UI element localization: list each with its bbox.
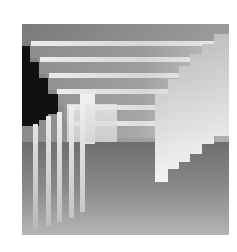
artwork-frame — [22, 24, 229, 235]
light-col-right-1 — [155, 94, 168, 182]
light-bar-h1 — [31, 41, 221, 46]
light-bar-v-left-1 — [33, 124, 38, 229]
light-bar-v-left-3 — [57, 112, 62, 222]
lower-gradient-field — [22, 142, 229, 235]
light-col-right-5 — [202, 44, 214, 144]
dark-step-2 — [30, 62, 39, 126]
light-bar-v-left-5 — [80, 100, 85, 212]
light-col-right-3 — [179, 66, 190, 162]
light-bar-v-left-2 — [46, 116, 51, 226]
light-bar-h2 — [40, 57, 215, 62]
dark-step-3 — [39, 78, 48, 120]
light-col-right-2 — [168, 79, 179, 169]
light-col-right-6 — [214, 34, 229, 136]
dark-step-4 — [48, 94, 58, 114]
light-col-right-4 — [190, 54, 202, 154]
dark-step-1 — [22, 46, 30, 126]
light-block-center-2 — [67, 104, 117, 142]
light-bar-v-left-4 — [69, 106, 74, 218]
